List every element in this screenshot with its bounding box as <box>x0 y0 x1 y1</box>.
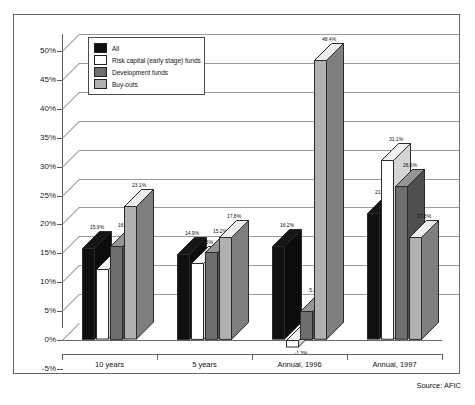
bar-value-label: 48.4% <box>322 36 336 42</box>
value-axis-label: 25% <box>14 192 56 200</box>
bar-3-1 <box>219 220 249 340</box>
bar-value-label: 17.8% <box>227 213 241 219</box>
zero-baseline <box>62 340 442 341</box>
value-axis-label: 35% <box>14 134 56 142</box>
value-axis-label: 50% <box>14 47 56 55</box>
value-axis-label: 10% <box>14 278 56 286</box>
bar-body <box>124 189 154 340</box>
bar-3-3 <box>409 220 439 340</box>
legend-item-all: All <box>94 42 199 54</box>
legend-swatch-risk-capital <box>94 55 107 65</box>
value-axis-label: 0% <box>14 336 56 344</box>
category-label-1: 5 years <box>157 361 253 369</box>
bar-value-label: 31.1% <box>389 136 403 142</box>
legend-item-development-funds: Development funds <box>94 66 199 78</box>
source-note: Source: AFIC <box>416 381 461 390</box>
value-axis-label: 30% <box>14 163 56 171</box>
bar-value-label: 23.1% <box>132 182 146 188</box>
category-label-2: Annual, 1996 <box>252 361 348 369</box>
value-axis-label: -5% <box>14 365 56 373</box>
bar-value-label: 26.6% <box>403 162 417 168</box>
value-axis-label: 20% <box>14 220 56 228</box>
value-axis-label: 45% <box>14 76 56 84</box>
category-label-0: 10 years <box>62 361 158 369</box>
legend-label-risk-capital: Risk capital (early stage) funds <box>112 57 201 64</box>
bar-body <box>409 220 439 340</box>
legend-item-buy-outs: Buy-outs <box>94 78 199 90</box>
legend-swatch-buy-outs <box>94 79 107 89</box>
category-tick <box>442 354 443 360</box>
gridline <box>79 121 459 122</box>
gridline <box>79 34 459 35</box>
legend-item-risk-capital: Risk capital (early stage) funds <box>94 54 199 66</box>
value-axis-label: 40% <box>14 105 56 113</box>
value-axis-label: 15% <box>14 249 56 257</box>
bar-value-label: 16.2% <box>280 222 294 228</box>
chart-legend: All Risk capital (early stage) funds Dev… <box>88 37 205 95</box>
legend-swatch-all <box>94 43 107 53</box>
legend-label-all: All <box>112 45 119 52</box>
value-axis-tick <box>57 369 63 370</box>
category-axis-line <box>62 354 442 355</box>
bar-value-label: 14.9% <box>185 230 199 236</box>
bar-value-label: 17.8% <box>417 213 431 219</box>
category-label-3: Annual, 1997 <box>347 361 443 369</box>
bar-value-label: 15.9% <box>90 224 104 230</box>
legend-label-development-funds: Development funds <box>112 69 168 76</box>
bar-body <box>314 43 344 340</box>
chart-root: 50%45%40%35%30%25%20%15%10%5%0%-5% 15.9%… <box>0 0 475 405</box>
bar-3-0 <box>124 189 154 340</box>
bar-3-2 <box>314 43 344 340</box>
bar-body <box>219 220 249 340</box>
legend-label-buy-outs: Buy-outs <box>112 81 138 88</box>
legend-swatch-development-funds <box>94 67 107 77</box>
value-axis-label: 5% <box>14 307 56 315</box>
